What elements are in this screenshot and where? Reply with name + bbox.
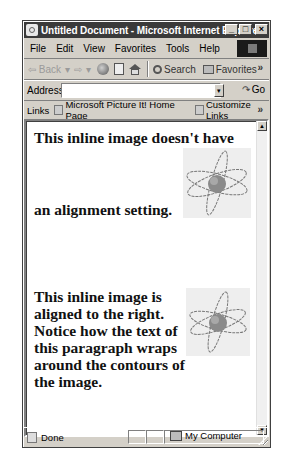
forward-dropdown[interactable]: ▾ [86, 64, 91, 75]
menu-edit[interactable]: Edit [56, 43, 73, 54]
link-picture-it-home[interactable]: Microsoft Picture It! Home Page [65, 99, 186, 121]
paragraph-2: This inline image is aligned to the righ… [34, 288, 256, 390]
forward-button[interactable]: ⇨ [74, 64, 82, 75]
status-pane [128, 430, 146, 444]
minimize-button[interactable]: _ [225, 24, 238, 35]
close-button[interactable]: × [255, 24, 268, 35]
my-computer-icon [170, 431, 182, 441]
menu-file[interactable]: File [30, 43, 46, 54]
address-input[interactable] [61, 83, 221, 98]
page-done-icon [27, 432, 37, 443]
stop-icon[interactable] [97, 63, 109, 75]
address-dropdown-icon[interactable]: ▾ [214, 84, 224, 97]
link-page-icon [195, 105, 204, 115]
atom-icon [183, 148, 251, 218]
menu-bar: File Edit View Favorites Tools Help [24, 39, 269, 59]
address-bar: Address ▾ ↷Go [24, 81, 269, 101]
maximize-button[interactable]: □ [239, 24, 252, 35]
standard-toolbar: ⇦ Back ▾ ⇨ ▾ Search Favorites » [24, 59, 269, 80]
paragraph-1-line-1: This inline image doesn't have [34, 129, 234, 146]
vertical-scrollbar[interactable]: ▲ ▼ [256, 121, 267, 435]
menu-favorites[interactable]: Favorites [115, 43, 156, 54]
menu-tools[interactable]: Tools [166, 43, 189, 54]
search-icon [153, 65, 162, 74]
float-spacer [186, 288, 256, 358]
toolbar-overflow-chevron-icon[interactable]: » [257, 62, 263, 73]
link-page-icon [54, 105, 63, 115]
zone-label: My Computer [185, 430, 242, 441]
scroll-up-icon[interactable]: ▲ [257, 121, 267, 131]
status-bar: Done My Computer [24, 427, 269, 446]
paragraph-1-line-2: an alignment setting. [34, 201, 172, 218]
favorites-icon [203, 65, 214, 74]
favorites-button[interactable]: Favorites [216, 64, 257, 75]
menu-help[interactable]: Help [199, 43, 220, 54]
inline-atom-image [183, 148, 251, 218]
go-arrow-icon: ↷ [242, 84, 250, 95]
browser-window: Untitled Document - Microsoft Internet E… [22, 20, 271, 448]
go-button[interactable]: ↷Go [242, 84, 265, 95]
status-text: Done [41, 432, 64, 443]
status-pane [146, 430, 164, 444]
address-label: Address [27, 85, 64, 96]
search-button[interactable]: Search [164, 64, 196, 75]
ie-icon [26, 24, 38, 36]
security-zone: My Computer [170, 430, 242, 441]
back-arrow-icon: ⇦ [28, 64, 36, 75]
toolbar-separator [147, 61, 148, 77]
links-label: Links [27, 105, 49, 116]
title-bar[interactable]: Untitled Document - Microsoft Internet E… [24, 22, 269, 38]
links-overflow-chevron-icon[interactable]: » [257, 104, 263, 115]
refresh-icon[interactable] [114, 63, 124, 75]
paragraph-2-text: This inline image is aligned to the righ… [34, 288, 185, 390]
back-dropdown[interactable]: ▾ [65, 64, 70, 75]
back-button[interactable]: ⇦ Back [28, 64, 61, 75]
links-bar: Links Microsoft Picture It! Home Page Cu… [24, 101, 269, 119]
home-icon[interactable] [129, 64, 141, 75]
windows-logo-throbber [237, 40, 267, 57]
menu-view[interactable]: View [83, 43, 105, 54]
page-content: This inline image doesn't have an alignm… [24, 119, 269, 437]
